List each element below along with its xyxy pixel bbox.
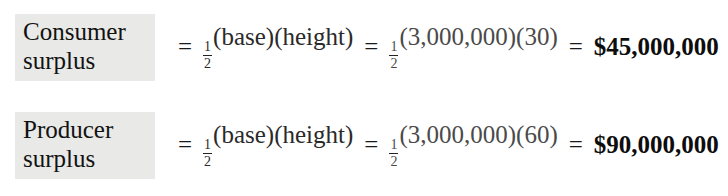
equation-row-consumer-surplus: Consumer surplus = 12(base)(height) = 12… <box>0 12 719 82</box>
result-value: $45,000,000 <box>594 33 719 61</box>
formula-text: (base)(height) <box>213 121 353 148</box>
producer-surplus-label: Producer surplus <box>15 112 155 179</box>
numeric-fraction-numerator: 1 <box>389 40 398 55</box>
label-line-secondary: surplus <box>23 46 141 76</box>
formula-expression: 12(base)(height) <box>203 23 353 71</box>
one-half-fraction: 12 <box>203 138 212 169</box>
fraction-numerator: 1 <box>203 138 212 153</box>
equals-sign-3: = <box>558 33 594 61</box>
one-half-fraction-numeric: 12 <box>389 40 398 71</box>
numeric-fraction-denominator: 2 <box>389 153 398 169</box>
equals-sign-1: = <box>167 131 203 159</box>
equals-sign-2: = <box>353 33 389 61</box>
equals-sign-2: = <box>353 131 389 159</box>
equals-sign-1: = <box>167 33 203 61</box>
fraction-denominator: 2 <box>203 153 212 169</box>
numeric-fraction-denominator: 2 <box>389 55 398 71</box>
formula-text: (base)(height) <box>213 23 353 50</box>
result-value: $90,000,000 <box>594 131 719 159</box>
consumer-surplus-label: Consumer surplus <box>15 14 155 81</box>
label-line-secondary: surplus <box>23 144 141 174</box>
equation-sheet: Consumer surplus = 12(base)(height) = 12… <box>0 0 728 196</box>
equals-sign-3: = <box>558 131 594 159</box>
numeric-values: (3,000,000)(30) <box>399 23 557 50</box>
numeric-fraction-numerator: 1 <box>389 138 398 153</box>
numeric-expression-group: 12(3,000,000)(60) <box>389 121 557 169</box>
equation-row-producer-surplus: Producer surplus = 12(base)(height) = 12… <box>0 110 719 180</box>
numeric-values: (3,000,000)(60) <box>399 121 557 148</box>
fraction-denominator: 2 <box>203 55 212 71</box>
numeric-expression-group: 12(3,000,000)(30) <box>389 23 557 71</box>
formula-expression: 12(base)(height) <box>203 121 353 169</box>
fraction-numerator: 1 <box>203 40 212 55</box>
one-half-fraction: 12 <box>203 40 212 71</box>
label-line-primary: Consumer <box>23 17 141 47</box>
one-half-fraction-numeric: 12 <box>389 138 398 169</box>
label-line-primary: Producer <box>23 115 141 145</box>
